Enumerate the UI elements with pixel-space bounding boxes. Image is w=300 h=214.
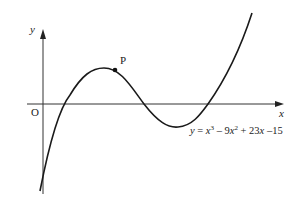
point-p-label: P: [120, 54, 126, 66]
point-p-marker: [113, 68, 118, 73]
graph-figure: P y x O y = x3 – 9x2 + 23x –15: [0, 0, 300, 214]
cubic-curve: [40, 13, 252, 191]
y-axis-label: y: [29, 23, 35, 35]
origin-label: O: [31, 106, 39, 118]
y-axis-arrow-icon: [40, 29, 46, 39]
x-axis-label: x: [278, 107, 284, 119]
equation-label: y = x3 – 9x2 + 23x –15: [189, 124, 283, 136]
